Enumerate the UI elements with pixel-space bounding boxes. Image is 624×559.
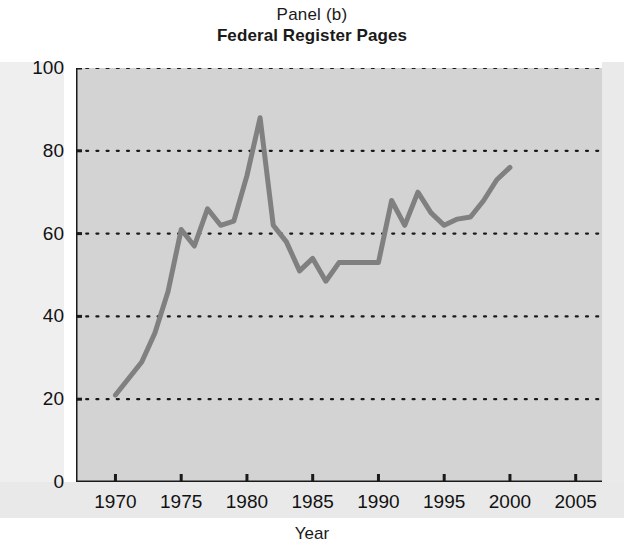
- y-axis-tick-label: 60: [2, 224, 64, 243]
- chart-title: Federal Register Pages: [0, 25, 624, 46]
- y-axis-tick-label: 20: [2, 389, 64, 408]
- x-axis-tick-label: 1995: [409, 491, 479, 513]
- x-axis-tick-label: 1980: [212, 491, 282, 513]
- plot-area: [76, 68, 602, 482]
- panel-label: Panel (b): [0, 4, 624, 25]
- y-axis-tick-labels: 020406080100: [0, 0, 64, 559]
- chart-figure: Panel (b) Federal Register Pages Thousan…: [0, 0, 624, 559]
- x-axis-tick-label: 1990: [343, 491, 413, 513]
- y-axis-tick-label: 40: [2, 306, 64, 325]
- x-axis-tick-label: 2005: [541, 491, 611, 513]
- plot-margin-right: [602, 62, 624, 482]
- x-axis-tick-label: 1985: [278, 491, 348, 513]
- y-axis-tick-label: 80: [2, 141, 64, 160]
- x-axis-tick-label: 1970: [80, 491, 150, 513]
- y-axis-tick-label: 0: [2, 472, 64, 491]
- x-axis-tick-labels: 19701975198019851990199520002005: [0, 491, 624, 517]
- chart-canvas: [76, 68, 602, 482]
- x-axis-label: Year: [0, 524, 624, 544]
- data-line: [115, 118, 510, 395]
- chart-title-block: Panel (b) Federal Register Pages: [0, 4, 624, 46]
- y-axis-tick-label: 100: [2, 58, 64, 77]
- x-axis-tick-label: 2000: [475, 491, 545, 513]
- x-axis-tick-label: 1975: [146, 491, 216, 513]
